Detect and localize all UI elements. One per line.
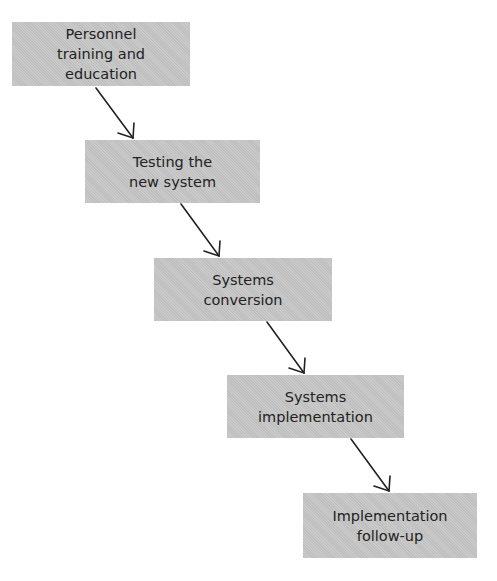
arrow-icon-1-to-2 [96, 88, 134, 138]
arrow-icon-3-to-4 [267, 322, 305, 373]
arrow-icon-4-to-5 [351, 439, 390, 491]
arrow-icon-2-to-3 [181, 204, 220, 256]
arrows-layer [0, 0, 497, 581]
